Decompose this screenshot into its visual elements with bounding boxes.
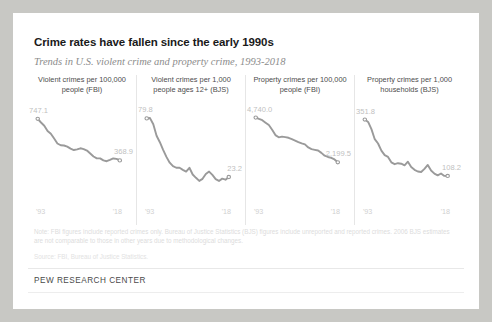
brand-footer: PEW RESEARCH CENTER — [34, 276, 146, 285]
plot-area — [137, 105, 245, 205]
end-value-label: 23.2 — [227, 164, 242, 173]
x-tick-end: '18 — [331, 207, 340, 216]
x-axis: '93 '18 — [28, 207, 136, 217]
panel-title: Property crimes per 100,000 people (FBI) — [246, 75, 354, 95]
page-title: Crime rates have fallen since the early … — [34, 36, 274, 48]
end-value-label: 108.2 — [442, 163, 461, 172]
panel-violent-bjs: Violent crimes per 1,000 people ages 12+… — [137, 75, 246, 225]
x-tick-start: '93 — [363, 207, 372, 216]
bottom-divider — [28, 292, 464, 293]
x-tick-start: '93 — [36, 207, 45, 216]
x-tick-start: '93 — [145, 207, 154, 216]
start-value-label: 4,740.0 — [247, 105, 272, 114]
footer-divider — [28, 268, 464, 269]
panel-property-bjs: Property crimes per 1,000 households (BJ… — [355, 75, 464, 225]
x-tick-start: '93 — [254, 207, 263, 216]
start-value-label: 747.1 — [29, 106, 48, 115]
x-tick-end: '18 — [222, 207, 231, 216]
end-value-label: 368.9 — [114, 147, 133, 156]
panel-violent-fbi: Violent crimes per 100,000 people (FBI) … — [28, 75, 137, 225]
x-axis: '93 '18 — [137, 207, 245, 217]
panel-title: Violent crimes per 100,000 people (FBI) — [28, 75, 136, 95]
panel-group: Violent crimes per 100,000 people (FBI) … — [28, 75, 464, 225]
panel-property-fbi: Property crimes per 100,000 people (FBI)… — [246, 75, 355, 225]
end-value-label: 2,199.5 — [326, 149, 351, 158]
panel-title: Property crimes per 1,000 households (BJ… — [355, 75, 464, 95]
start-value-label: 79.8 — [138, 105, 153, 114]
chart-card: Crime rates have fallen since the early … — [13, 13, 479, 309]
x-axis: '93 '18 — [355, 207, 464, 217]
chart-subtitle: Trends in U.S. violent crime and propert… — [34, 56, 285, 67]
x-axis: '93 '18 — [246, 207, 354, 217]
start-value-label: 351.8 — [356, 107, 375, 116]
chart-note: Note: FBI figures include reported crime… — [34, 228, 458, 245]
x-tick-end: '18 — [441, 207, 450, 216]
chart-source: Source: FBI, Bureau of Justice Statistic… — [34, 253, 148, 262]
panel-title: Violent crimes per 1,000 people ages 12+… — [137, 75, 245, 95]
x-tick-end: '18 — [113, 207, 122, 216]
plot-area — [355, 105, 464, 205]
